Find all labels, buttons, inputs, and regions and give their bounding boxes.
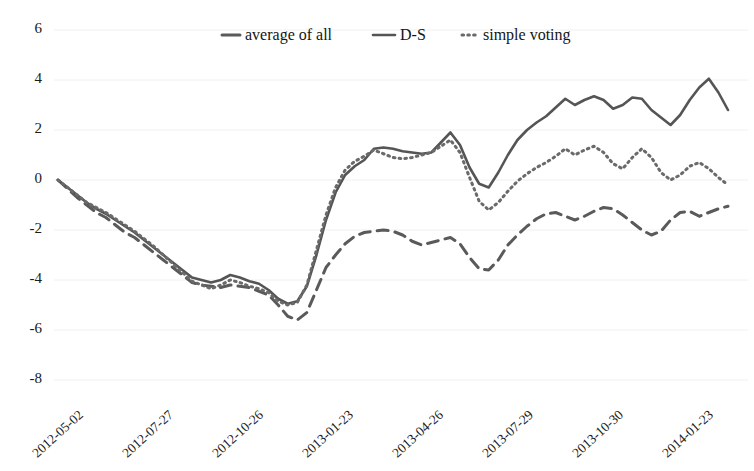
y-axis-tick-label: 6 bbox=[35, 20, 43, 36]
x-axis-tick-label: 2013-07-29 bbox=[479, 407, 536, 460]
x-axis-tick-label: 2012-10-26 bbox=[209, 407, 266, 460]
x-axis-tick-labels: 2012-05-022012-07-272012-10-262013-01-23… bbox=[29, 407, 716, 460]
x-axis-tick-label: 2013-01-23 bbox=[299, 407, 356, 460]
chart-legend: average of allD-Ssimple voting bbox=[222, 26, 571, 44]
x-axis-tick-label: 2014-01-23 bbox=[659, 407, 716, 460]
y-axis-tick-label: -8 bbox=[30, 370, 43, 386]
legend-label-d-s: D-S bbox=[400, 26, 426, 43]
legend-label-simple-voting: simple voting bbox=[483, 26, 571, 44]
series-layer bbox=[58, 79, 728, 320]
y-axis-tick-label: 2 bbox=[35, 120, 43, 136]
x-axis-tick-label: 2013-10-30 bbox=[569, 407, 626, 460]
y-axis-tick-label: 4 bbox=[35, 70, 43, 86]
y-axis-tick-label: 0 bbox=[35, 170, 43, 186]
y-axis-tick-label: -2 bbox=[30, 220, 43, 236]
series-line-d-s bbox=[58, 79, 728, 304]
gridlines bbox=[54, 30, 748, 380]
x-axis-tick-label: 2012-07-27 bbox=[119, 407, 176, 460]
x-axis-tick-label: 2012-05-02 bbox=[29, 407, 86, 460]
y-axis-tick-label: -4 bbox=[30, 270, 43, 286]
x-axis-tick-label: 2013-04-26 bbox=[389, 407, 446, 460]
y-axis-tick-label: -6 bbox=[30, 320, 43, 336]
y-axis-tick-labels: 6420-2-4-6-8 bbox=[30, 20, 43, 386]
line-chart: 6420-2-4-6-8 2012-05-022012-07-272012-10… bbox=[0, 0, 754, 471]
legend-label-average-of-all: average of all bbox=[245, 26, 333, 44]
chart-canvas: 6420-2-4-6-8 2012-05-022012-07-272012-10… bbox=[0, 0, 754, 471]
